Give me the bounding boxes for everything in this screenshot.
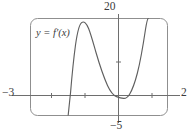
y-axis-max-label: 20 bbox=[104, 0, 116, 12]
graph-figure: 20 −5 −3 2 y = f′(x) bbox=[0, 0, 194, 137]
y-axis-min-label: −5 bbox=[110, 119, 122, 131]
derivative-curve bbox=[68, 19, 148, 115]
x-axis-min-label: −3 bbox=[2, 86, 14, 98]
x-axis-max-label: 2 bbox=[181, 86, 187, 98]
plot-canvas bbox=[0, 0, 194, 137]
curve-equation-label: y = f′(x) bbox=[36, 27, 70, 38]
